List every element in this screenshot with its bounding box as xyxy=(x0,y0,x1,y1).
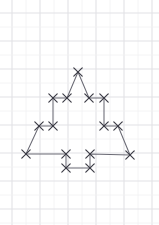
tree-drawing xyxy=(0,0,159,225)
figure-edges xyxy=(26,72,130,168)
tree-outline-path xyxy=(26,72,130,168)
graph-paper-canvas xyxy=(0,0,159,225)
figure-vertex-markers xyxy=(22,68,134,172)
vertex-marker-apex xyxy=(74,68,82,76)
